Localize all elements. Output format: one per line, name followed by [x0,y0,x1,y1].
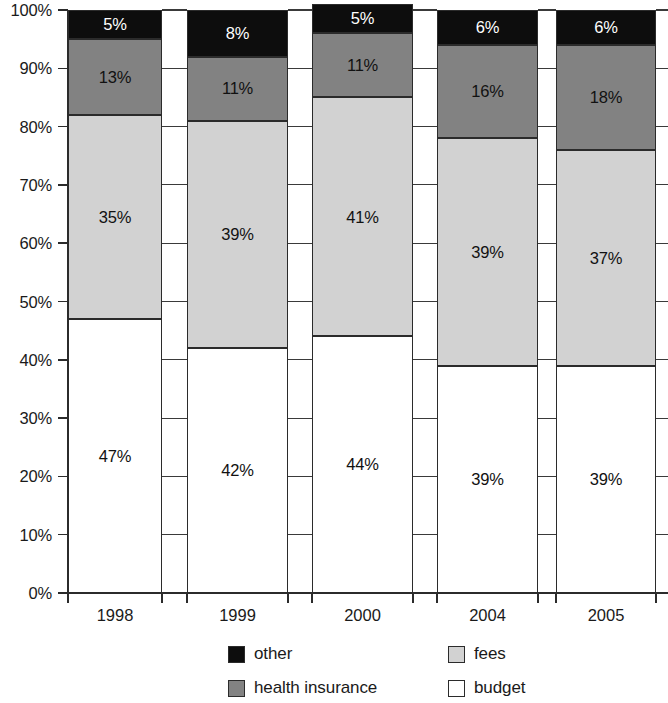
bar-segment-2005-health-insurance: 18% [556,45,656,150]
x-axis-tick [287,593,288,603]
y-axis-tick-label: 0% [29,584,52,603]
legend-label: other [254,644,292,664]
x-axis-label-2004: 2004 [469,606,506,625]
y-axis-tick-label: 80% [20,117,52,136]
bar-segment-2004-other: 6% [437,10,538,45]
bar-segment-1999-other: 8% [187,10,288,57]
legend-item-other[interactable]: other [228,644,292,664]
bar-segment-2000-budget: 44% [312,336,413,593]
bar-segment-value-label: 11% [347,57,378,74]
legend-item-health-insurance[interactable]: health insurance [228,678,377,698]
y-axis-tick-label: 30% [20,409,52,428]
bar-segment-value-label: 5% [351,10,374,27]
y-axis-tick-label: 100% [11,1,52,20]
bar-segment-1999-health-insurance: 11% [187,57,288,121]
bar-1999: 42%39%11%8% [187,10,288,593]
y-axis-tick [58,534,68,536]
bar-segment-value-label: 39% [471,244,503,261]
bar-segment-2004-budget: 39% [437,366,538,593]
bar-segment-value-label: 41% [346,209,378,226]
x-axis-tick [555,593,556,603]
stacked-bar-chart: 0%10%20%30%40%50%60%70%80%90%100% 199819… [0,0,668,703]
legend-swatch-dark-gray [228,680,245,697]
y-axis-tick [58,359,68,361]
y-axis-tick-label: 50% [20,292,52,311]
y-axis-tick [58,301,68,303]
bar-segment-value-label: 5% [103,16,126,33]
bar-segment-value-label: 39% [221,226,253,243]
bar-segment-1998-budget: 47% [68,319,162,593]
y-axis-tick [58,126,68,128]
x-axis-tick [67,593,68,603]
legend-item-budget[interactable]: budget [448,678,525,698]
legend-swatch-black [228,646,245,663]
legend-label: fees [474,644,506,664]
bar-segment-1999-fees: 39% [187,121,288,348]
x-axis-tick [186,593,187,603]
bar-segment-2000-fees: 41% [312,97,413,336]
bar-segment-value-label: 8% [226,25,249,42]
bar-segment-1998-health-insurance: 13% [68,39,162,115]
bar-2005: 39%37%18%6% [556,10,656,593]
y-axis-tick [58,9,68,11]
bar-segment-2004-health-insurance: 16% [437,45,538,138]
y-axis-tick [58,417,68,419]
bar-2004: 39%39%16%6% [437,10,538,593]
bar-segment-value-label: 44% [346,456,378,473]
x-axis-label-1998: 1998 [97,606,134,625]
bar-segment-value-label: 16% [471,83,503,100]
x-axis-tick [161,593,162,603]
x-axis-tick [412,593,413,603]
y-axis-tick-label: 40% [20,350,52,369]
bar-segment-value-label: 11% [222,80,253,97]
y-axis-tick-label: 70% [20,175,52,194]
bar-segment-2000-other: 5% [312,4,413,33]
y-axis-tick [58,68,68,70]
legend-label: budget [474,678,525,698]
y-axis-tick-label: 60% [20,234,52,253]
bar-2000: 44%41%11%5% [312,10,413,593]
bar-segment-value-label: 13% [99,69,131,86]
bar-segment-1999-budget: 42% [187,348,288,593]
bar-segment-value-label: 35% [99,209,131,226]
legend-swatch-light-gray [448,646,465,663]
bar-segment-value-label: 39% [590,471,622,488]
y-axis-tick-label: 90% [20,59,52,78]
bar-segment-value-label: 39% [471,471,503,488]
legend-label: health insurance [254,678,377,698]
bar-segment-value-label: 42% [221,462,253,479]
bar-segment-value-label: 37% [590,250,622,267]
bar-segment-2005-other: 6% [556,10,656,45]
legend-item-fees[interactable]: fees [448,644,506,664]
bar-segment-2004-fees: 39% [437,138,538,365]
bar-segment-value-label: 18% [590,89,622,106]
plot-area: 47%35%13%5%42%39%11%8%44%41%11%5%39%39%1… [68,10,668,593]
bar-segment-value-label: 47% [99,448,131,465]
x-axis-tick [537,593,538,603]
legend-swatch-white [448,680,465,697]
bar-segment-2000-health-insurance: 11% [312,33,413,97]
x-axis-tick [311,593,312,603]
y-axis-tick [58,476,68,478]
y-axis-tick [58,242,68,244]
bar-segment-1998-other: 5% [68,10,162,39]
bar-1998: 47%35%13%5% [68,10,162,593]
bar-segment-value-label: 6% [476,19,499,36]
x-axis-tick [436,593,437,603]
bar-segment-value-label: 6% [594,19,617,36]
x-axis-label-2000: 2000 [344,606,381,625]
x-axis-tick [655,593,656,603]
y-axis-tick-label: 20% [20,467,52,486]
y-axis-tick-label: 10% [20,525,52,544]
x-axis-label-2005: 2005 [588,606,625,625]
bar-segment-1998-fees: 35% [68,115,162,319]
bar-segment-2005-fees: 37% [556,150,656,366]
x-axis-label-1999: 1999 [219,606,256,625]
chart-legend: otherfeeshealth insurancebudget [0,640,668,703]
bar-segment-2005-budget: 39% [556,366,656,593]
y-axis-tick [58,184,68,186]
